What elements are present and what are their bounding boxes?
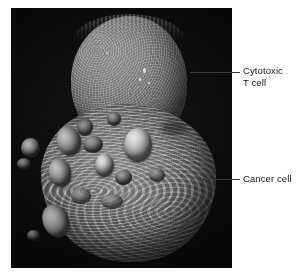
cell-pair (11, 8, 232, 268)
detached-vesicle (27, 230, 40, 241)
leader-line-cancer-cell (200, 179, 240, 180)
t-cell-specular-fleck (148, 82, 150, 84)
membrane-bleb (149, 168, 165, 182)
figure-root: Cytotoxic T cell Cancer cell (0, 0, 301, 279)
membrane-bleb (107, 112, 121, 126)
leader-line-cytotoxic-t-cell (190, 72, 240, 73)
membrane-bleb (124, 128, 152, 162)
scanning-electron-micrograph (11, 8, 232, 268)
membrane-bleb (101, 194, 123, 209)
label-cancer-cell: Cancer cell (243, 173, 292, 185)
t-cell-specular-fleck (139, 78, 141, 81)
membrane-bleb (95, 154, 114, 177)
intercellular-cleft (65, 112, 87, 124)
detached-vesicle (17, 158, 31, 170)
membrane-bleb (115, 170, 132, 185)
intercellular-cleft (161, 120, 187, 136)
membrane-bleb (71, 188, 91, 204)
t-cell-ragged-rim (73, 14, 185, 44)
membrane-bleb (83, 136, 103, 153)
t-cell-specular-fleck (143, 68, 146, 73)
t-cell-specular-fleck (106, 52, 108, 54)
label-cytotoxic-t-cell: Cytotoxic T cell (243, 65, 283, 88)
detached-vesicle (21, 138, 40, 158)
